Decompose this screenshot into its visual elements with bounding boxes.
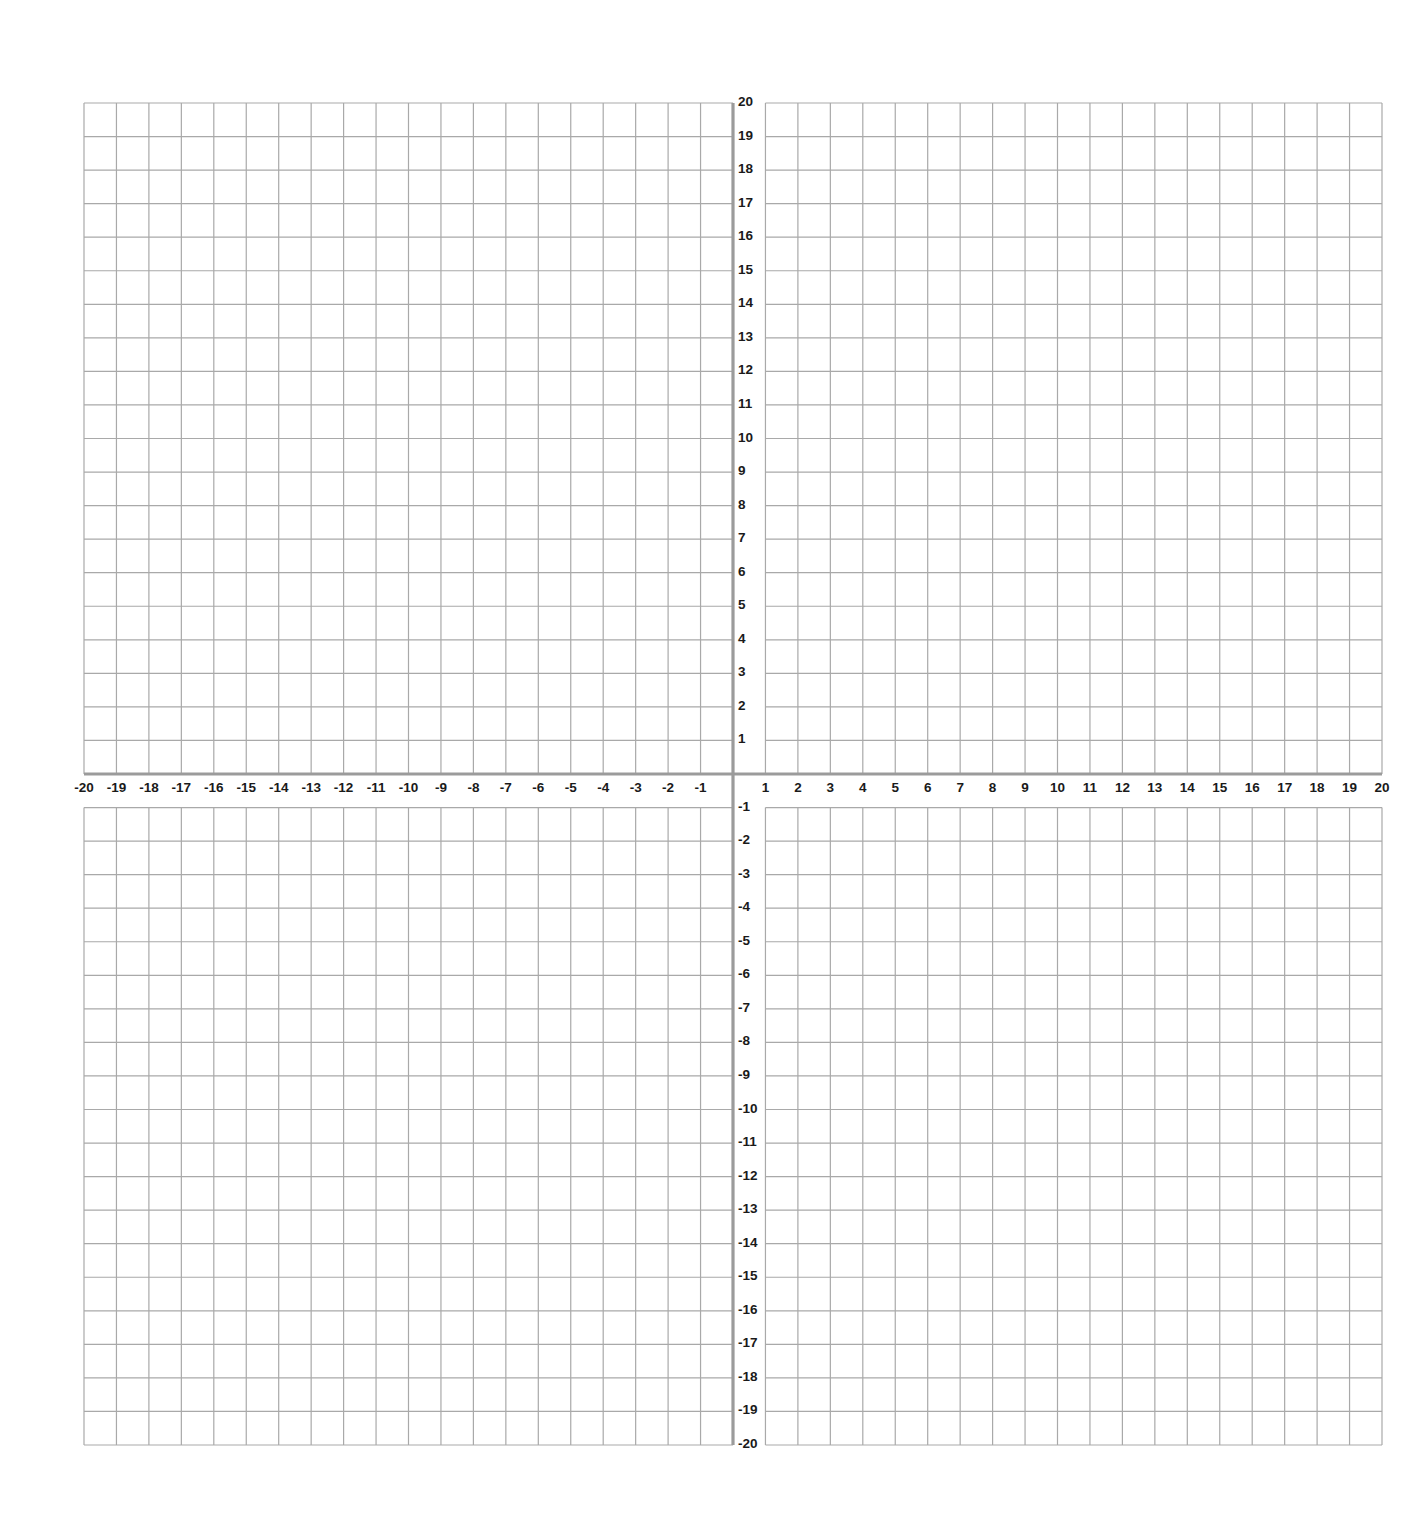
x-tick-label: -18 (139, 780, 159, 795)
x-tick-label: 2 (794, 780, 802, 795)
x-tick-label: -11 (367, 780, 386, 795)
x-tick-label: 19 (1342, 780, 1357, 795)
y-tick-label: -10 (738, 1101, 758, 1116)
x-tick-label: -8 (467, 780, 479, 795)
y-tick-label: 10 (738, 430, 753, 445)
x-tick-label: -9 (435, 780, 447, 795)
x-tick-label: -20 (74, 780, 94, 795)
x-tick-label: -3 (630, 780, 642, 795)
x-tick-label: -6 (532, 780, 544, 795)
y-tick-label: -9 (738, 1067, 750, 1082)
y-tick-label: -14 (738, 1235, 758, 1250)
y-tick-label: -4 (738, 899, 750, 914)
x-tick-label: -13 (301, 780, 321, 795)
coordinate-plane: -20-19-18-17-16-15-14-13-12-11-10-9-8-7-… (0, 0, 1422, 1527)
y-tick-label: -2 (738, 832, 750, 847)
y-tick-label: 20 (738, 94, 753, 109)
x-tick-label: 7 (956, 780, 964, 795)
y-tick-label: -7 (738, 1000, 750, 1015)
x-tick-label: -17 (172, 780, 192, 795)
x-tick-label: 4 (859, 780, 867, 795)
y-tick-label: -18 (738, 1369, 758, 1384)
x-tick-label: 11 (1083, 780, 1098, 795)
x-tick-label: -4 (597, 780, 609, 795)
y-tick-label: -12 (738, 1168, 758, 1183)
x-tick-label: -19 (107, 780, 127, 795)
y-tick-label: 7 (738, 530, 746, 545)
x-tick-label: 13 (1147, 780, 1163, 795)
x-tick-label: -14 (269, 780, 289, 795)
x-tick-label: 10 (1050, 780, 1065, 795)
y-tick-label: -6 (738, 966, 750, 981)
y-tick-label: 12 (738, 362, 753, 377)
y-tick-label: 5 (738, 597, 746, 612)
x-tick-label: -7 (500, 780, 512, 795)
x-tick-label: -5 (565, 780, 577, 795)
x-tick-label: 14 (1180, 780, 1196, 795)
y-tick-label: -15 (738, 1268, 758, 1283)
x-tick-label: 15 (1212, 780, 1228, 795)
x-tick-label: -16 (204, 780, 224, 795)
y-tick-label: 18 (738, 161, 754, 176)
y-tick-label: 3 (738, 664, 746, 679)
y-tick-label: -13 (738, 1201, 758, 1216)
y-tick-label: 13 (738, 329, 754, 344)
x-tick-label: 9 (1021, 780, 1029, 795)
y-tick-label: -1 (738, 799, 750, 814)
x-tick-label: -10 (399, 780, 419, 795)
y-tick-label: -20 (738, 1436, 758, 1451)
y-tick-label: 4 (738, 631, 746, 646)
y-tick-label: -3 (738, 866, 750, 881)
y-tick-label: -8 (738, 1033, 750, 1048)
x-tick-label: -2 (662, 780, 674, 795)
y-tick-label: -5 (738, 933, 750, 948)
y-tick-label: -16 (738, 1302, 758, 1317)
y-tick-label: 1 (738, 731, 746, 746)
x-tick-label: 20 (1374, 780, 1389, 795)
y-tick-label: 17 (738, 195, 753, 210)
y-tick-label: 6 (738, 564, 746, 579)
x-tick-label: 3 (827, 780, 835, 795)
x-tick-label: 16 (1245, 780, 1261, 795)
x-tick-label: 18 (1310, 780, 1326, 795)
y-tick-label: 8 (738, 497, 746, 512)
x-tick-label: 8 (989, 780, 997, 795)
y-tick-label: 15 (738, 262, 754, 277)
x-tick-label: -15 (236, 780, 256, 795)
x-tick-label: 12 (1115, 780, 1130, 795)
y-tick-label: 11 (738, 396, 753, 411)
y-tick-label: -19 (738, 1402, 758, 1417)
y-tick-label: 19 (738, 128, 753, 143)
x-tick-label: 5 (891, 780, 899, 795)
y-tick-label: 14 (738, 295, 754, 310)
y-tick-label: -11 (738, 1134, 757, 1149)
y-tick-label: 16 (738, 228, 754, 243)
x-tick-label: -1 (695, 780, 707, 795)
x-tick-label: 17 (1277, 780, 1292, 795)
x-tick-label: 6 (924, 780, 932, 795)
x-tick-label: 1 (762, 780, 770, 795)
y-tick-label: 9 (738, 463, 746, 478)
y-tick-label: 2 (738, 698, 746, 713)
y-tick-label: -17 (738, 1335, 758, 1350)
x-tick-label: -12 (334, 780, 354, 795)
